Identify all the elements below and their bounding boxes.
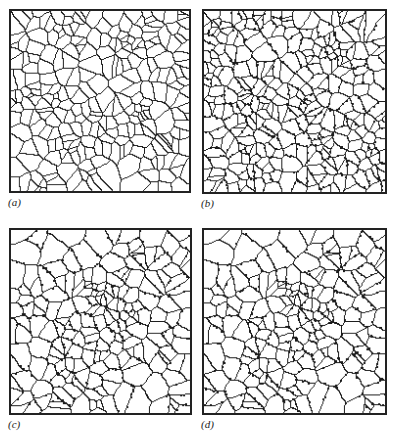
panel-b	[202, 9, 387, 194]
panel-label-c: (c)	[8, 418, 20, 430]
panel-d	[202, 228, 387, 415]
panel-label-a: (a)	[8, 196, 21, 208]
panel-a	[9, 9, 191, 193]
grain-map-a	[11, 11, 189, 191]
panel-c	[9, 228, 192, 415]
grain-map-b	[204, 11, 385, 192]
grain-map-d	[204, 230, 385, 413]
panel-label-b: (b)	[201, 197, 214, 209]
grain-map-c	[11, 230, 190, 413]
panel-label-d: (d)	[201, 418, 214, 430]
